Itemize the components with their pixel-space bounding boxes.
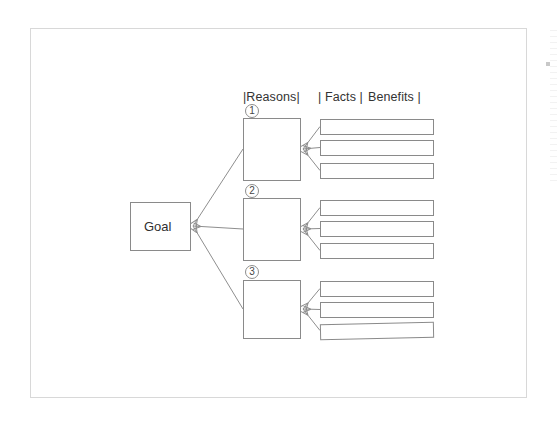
ruler-tick (550, 66, 557, 67)
branch-number-3: 3 (245, 265, 259, 279)
reason-box-1[interactable] (243, 118, 300, 180)
ruler-tick (550, 132, 557, 133)
ruler-tick (550, 150, 557, 151)
branch-number-1: 1 (245, 104, 259, 118)
ruler-tick (550, 156, 557, 157)
ruler-tick (550, 108, 557, 109)
benefit-box-2-2[interactable] (320, 221, 433, 236)
benefit-box-1-2[interactable] (320, 140, 433, 155)
corner-mark-artifact (546, 62, 550, 66)
ruler-tick (550, 42, 557, 43)
ruler-tick (550, 138, 557, 139)
ruler-tick (550, 30, 557, 31)
ruler-tick (550, 168, 557, 169)
ruler-tick (550, 90, 557, 91)
column-header-reasons: |Reasons| (243, 91, 300, 104)
ruler-tick (550, 78, 557, 79)
ruler-tick (550, 144, 557, 145)
column-header-benefits: Benefits | (368, 91, 421, 104)
ruler-tick (550, 48, 557, 49)
diagram-canvas: |Reasons| | Facts | Benefits | Goal 123 (0, 0, 557, 421)
ruler-tick (550, 72, 557, 73)
reason-box-2[interactable] (243, 198, 300, 260)
benefit-box-1-1[interactable] (320, 119, 433, 134)
benefit-box-3-1[interactable] (320, 281, 433, 296)
ruler-tick (550, 96, 557, 97)
ruler-tick (550, 126, 557, 127)
benefit-box-2-3[interactable] (320, 243, 433, 258)
ruler-tick (550, 54, 557, 55)
benefit-box-1-3[interactable] (320, 163, 433, 178)
column-header-facts: | Facts | (318, 91, 363, 104)
ruler-tick (550, 120, 557, 121)
benefit-box-2-1[interactable] (320, 200, 433, 215)
ruler-tick (550, 36, 557, 37)
ruler-tick (550, 174, 557, 175)
ruler-tick (550, 180, 557, 181)
ruler-tick (550, 102, 557, 103)
ruler-tick (550, 114, 557, 115)
edge-ruler-artifact (546, 30, 557, 180)
ruler-tick (550, 84, 557, 85)
reason-box-3[interactable] (243, 280, 300, 338)
branch-number-2: 2 (245, 184, 259, 198)
ruler-tick (550, 162, 557, 163)
benefit-box-3-2[interactable] (320, 302, 433, 317)
ruler-tick (550, 60, 557, 61)
goal-box[interactable] (130, 202, 190, 250)
benefit-box-3-3[interactable] (320, 323, 433, 338)
